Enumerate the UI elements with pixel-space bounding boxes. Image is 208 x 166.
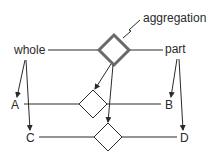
aggregation-pointer: [123, 20, 140, 38]
aggregation-diamond: [99, 35, 129, 65]
node-b-label: B: [165, 98, 173, 112]
arrow-part-to-b: [171, 59, 177, 97]
arrow-aggregation-to-ab: [95, 64, 111, 89]
relationship-diamond-cd: [94, 123, 122, 151]
arrow-whole-to-a: [17, 60, 25, 97]
arrow-whole-to-c: [26, 60, 30, 130]
node-a-label: A: [11, 98, 19, 112]
node-c-label: C: [26, 131, 35, 145]
arrow-aggregation-to-cd: [108, 65, 113, 122]
diagram-svg: aggregation whole part A B C D: [0, 0, 208, 166]
relationship-diamond-ab: [79, 90, 107, 118]
whole-label: whole: [13, 43, 46, 57]
node-d-label: D: [180, 131, 189, 145]
aggregation-label: aggregation: [143, 11, 206, 25]
arrow-part-to-d: [179, 59, 183, 130]
part-label: part: [165, 42, 186, 56]
aggregation-diagram: aggregation whole part A B C D: [0, 0, 208, 166]
